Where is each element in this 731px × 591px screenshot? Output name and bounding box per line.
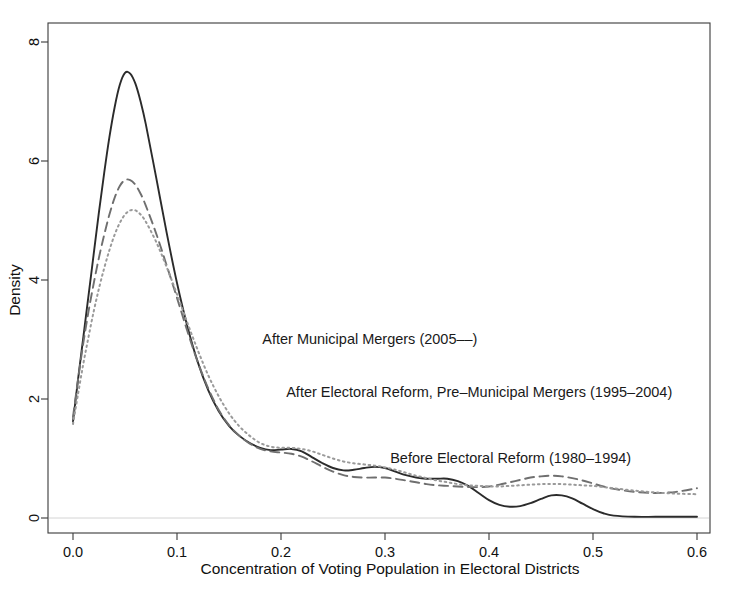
y-tick-label: 8 — [26, 38, 42, 46]
series-label-2: After Municipal Mergers (2005––) — [262, 331, 477, 347]
y-axis-ticks: 02468 — [26, 38, 48, 522]
x-tick-label: 0.3 — [375, 544, 395, 560]
y-tick-label: 2 — [26, 395, 42, 403]
plot-canvas: 0.00.10.20.30.40.50.6 02468 Before Elect… — [0, 0, 731, 591]
series-label-1: After Electoral Reform, Pre–Municipal Me… — [286, 384, 672, 400]
series-label-0: Before Electoral Reform (1980–1994) — [390, 450, 631, 466]
x-axis-title: Concentration of Voting Population in El… — [200, 560, 579, 577]
series-annotations: Before Electoral Reform (1980–1994)After… — [262, 331, 672, 467]
y-tick-label: 6 — [26, 157, 42, 165]
density-plot-figure: 0.00.10.20.30.40.50.6 02468 Before Elect… — [0, 0, 731, 591]
x-tick-label: 0.0 — [63, 544, 83, 560]
x-axis-ticks: 0.00.10.20.30.40.50.6 — [63, 533, 707, 560]
x-tick-label: 0.4 — [479, 544, 499, 560]
x-tick-label: 0.1 — [167, 544, 187, 560]
y-tick-label: 0 — [26, 514, 42, 522]
x-tick-label: 0.6 — [687, 544, 707, 560]
x-tick-label: 0.5 — [583, 544, 603, 560]
y-tick-label: 4 — [26, 276, 42, 284]
x-tick-label: 0.2 — [271, 544, 291, 560]
y-axis-title: Density — [6, 264, 23, 316]
